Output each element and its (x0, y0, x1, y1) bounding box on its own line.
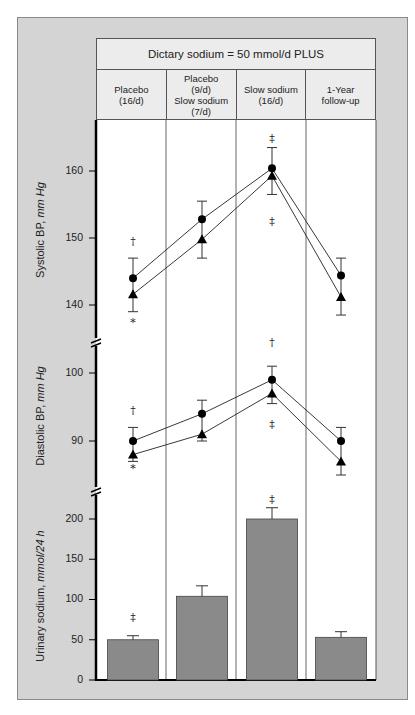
significance-mark: ‡ (269, 132, 275, 145)
circle-marker-icon (337, 272, 345, 280)
significance-mark: † (130, 235, 136, 248)
significance-mark: * (130, 316, 136, 329)
triangle-marker-icon (267, 171, 277, 180)
circle-marker-icon (268, 376, 276, 384)
chart-graphics: †*‡‡†*†‡‡‡ (0, 0, 415, 715)
circle-marker-icon (129, 274, 137, 282)
significance-mark: † (130, 404, 136, 417)
urinary-bar (316, 637, 367, 680)
significance-mark: † (269, 336, 275, 349)
significance-mark: ‡ (269, 493, 275, 506)
series-line-circle (133, 168, 341, 278)
urinary-bar (177, 596, 228, 680)
circle-marker-icon (337, 437, 345, 445)
triangle-marker-icon (128, 450, 138, 459)
significance-mark: * (130, 462, 136, 475)
axis-break-icon (91, 488, 101, 492)
triangle-marker-icon (197, 429, 207, 438)
significance-mark: ‡ (269, 215, 275, 228)
significance-mark: ‡ (269, 418, 275, 431)
circle-marker-icon (198, 410, 206, 418)
triangle-marker-icon (267, 388, 277, 397)
urinary-bar (108, 640, 159, 680)
triangle-marker-icon (336, 292, 346, 301)
series-line-triangle (133, 393, 341, 461)
series-line-circle (133, 380, 341, 441)
circle-marker-icon (198, 215, 206, 223)
significance-mark: ‡ (130, 611, 136, 624)
triangle-marker-icon (128, 289, 138, 298)
urinary-bar (247, 519, 298, 680)
axis-break-icon (91, 339, 101, 343)
circle-marker-icon (129, 437, 137, 445)
